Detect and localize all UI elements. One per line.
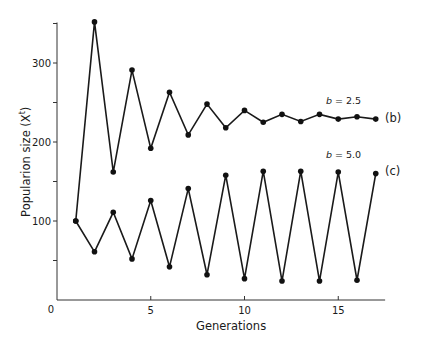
data-point	[129, 256, 135, 262]
x-tick-label: 5	[148, 305, 154, 316]
data-point	[110, 210, 116, 216]
series-tag-label: (c)	[385, 164, 400, 178]
series-line	[76, 22, 376, 221]
data-point	[148, 146, 154, 152]
labels: Generations Popularion size (Xt) 0	[18, 107, 266, 333]
series-annotations: b = 2.5(b)b = 5.0(c)	[326, 95, 401, 178]
data-point	[223, 172, 229, 178]
series-param-annotation: b = 5.0	[326, 149, 361, 160]
data-point	[129, 67, 135, 73]
y-axis-title-main: Popularion size (X	[19, 114, 33, 217]
data-point	[92, 249, 98, 255]
data-point	[260, 168, 266, 174]
y-tick-label: 100	[32, 216, 51, 227]
data-point	[204, 101, 210, 107]
data-point	[185, 132, 191, 138]
population-chart: 10020030051015 Generations Popularion si…	[0, 0, 421, 350]
origin-label: 0	[48, 304, 54, 315]
data-point	[354, 114, 360, 120]
data-point	[279, 112, 285, 118]
data-point	[335, 116, 341, 122]
data-point	[167, 264, 173, 270]
data-point	[92, 19, 98, 25]
data-point	[148, 198, 154, 204]
series-tag-label: (b)	[385, 111, 401, 125]
param-value: = 5.0	[332, 149, 361, 160]
x-axis-title: Generations	[196, 319, 266, 333]
data-point	[373, 116, 379, 122]
series-c	[73, 168, 379, 283]
data-point	[223, 125, 229, 131]
data-point	[298, 119, 304, 125]
y-axis-title: Popularion size (Xt)	[18, 107, 33, 217]
data-point	[317, 278, 323, 284]
chart-canvas: 10020030051015 Generations Popularion si…	[0, 0, 421, 350]
data-point	[354, 277, 360, 283]
y-tick-label: 300	[32, 58, 51, 69]
data-point	[335, 169, 341, 175]
data-point	[110, 169, 116, 175]
x-tick-label: 10	[238, 305, 251, 316]
x-tick-label: 15	[332, 305, 345, 316]
data-point	[317, 112, 323, 118]
y-axis-title-close: )	[19, 107, 33, 112]
data-point	[167, 89, 173, 95]
series-line	[76, 171, 376, 281]
data-point	[373, 171, 379, 177]
data-point	[242, 276, 248, 282]
series-param-annotation: b = 2.5	[326, 95, 361, 106]
data-point	[279, 278, 285, 284]
data-point	[298, 168, 304, 174]
series-b	[73, 19, 379, 224]
data-point	[73, 218, 79, 224]
param-value: = 2.5	[332, 95, 361, 106]
data-point	[242, 108, 248, 114]
data-point	[185, 186, 191, 192]
data-point	[260, 119, 266, 125]
axes: 10020030051015	[32, 23, 385, 317]
data-point	[204, 272, 210, 278]
y-tick-label: 200	[32, 137, 51, 148]
